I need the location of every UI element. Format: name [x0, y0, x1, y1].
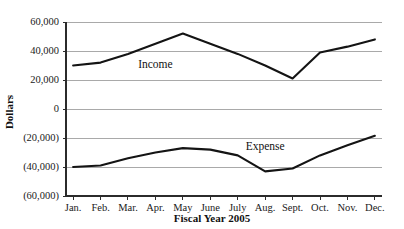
y-axis-tick-label: 0: [54, 103, 59, 114]
y-axis-title: Dollars: [3, 94, 15, 129]
y-axis-tick-label: (20,000): [23, 132, 59, 144]
y-axis-tick-labels: 60,00040,00020,0000(20,000)(40,000)(60,0…: [23, 16, 66, 202]
y-axis-tick-label: 60,000: [30, 16, 59, 27]
x-axis-tick-marks: [73, 196, 375, 200]
line-chart-figure: 60,00040,00020,0000(20,000)(40,000)(60,0…: [0, 0, 404, 229]
x-axis-title: Fiscal Year 2005: [174, 212, 251, 224]
data-series-group: [73, 34, 375, 172]
x-axis-tick-label: Sept.: [282, 202, 303, 213]
x-axis-tick-label: Apr.: [146, 202, 164, 213]
x-axis-tick-label: Nov.: [337, 202, 357, 213]
x-axis-tick-label: Aug.: [255, 202, 276, 213]
y-axis-tick-label: (60,000): [23, 190, 59, 202]
x-axis-tick-label: Oct.: [311, 202, 329, 213]
y-axis-tick-label: (40,000): [23, 161, 59, 173]
x-axis-tick-label: Jan.: [65, 202, 82, 213]
x-axis-tick-label: Mar.: [118, 202, 138, 213]
x-axis-tick-label: Dec.: [365, 202, 385, 213]
y-axis-tick-label: 40,000: [30, 45, 59, 56]
x-axis-tick-label: Feb.: [91, 202, 109, 213]
series-line-income: [73, 34, 375, 79]
series-label-income: Income: [138, 58, 172, 70]
chart-canvas: 60,00040,00020,0000(20,000)(40,000)(60,0…: [0, 0, 404, 229]
y-axis-tick-label: 20,000: [30, 74, 59, 85]
series-line-expense: [73, 136, 375, 172]
series-label-expense: Expense: [246, 140, 285, 153]
